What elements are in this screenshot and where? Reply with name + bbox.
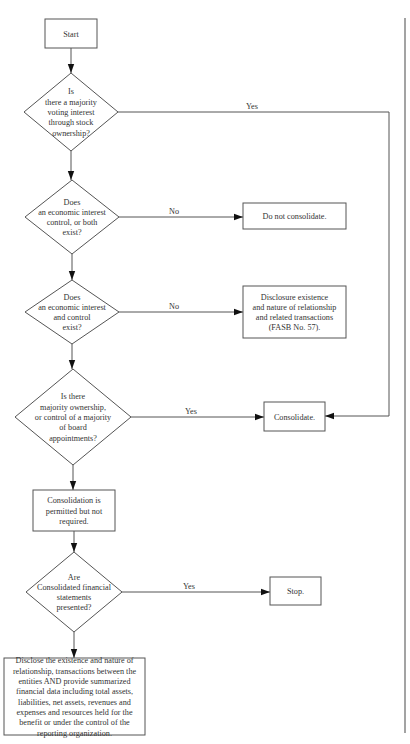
edge-q1-to-consolidate: Yes	[118, 102, 389, 419]
node-text-line: an economic interest	[38, 303, 106, 312]
node-permitted: Consolidation ispermitted but notrequire…	[33, 490, 115, 531]
node-text-line: through stock	[49, 118, 95, 127]
node-text-line: reporting organization.	[37, 729, 112, 738]
decision-diamond	[25, 180, 119, 254]
arrowhead-icon	[325, 413, 334, 419]
node-text-line: statements	[57, 593, 92, 602]
nodes-layer: StartIsthere a majorityvoting interestth…	[4, 19, 346, 738]
edge-label: Yes	[183, 582, 195, 591]
edge-q5-to-stop: Yes	[122, 582, 270, 595]
node-disclose-full: Disclose the existence and nature ofrela…	[4, 656, 145, 737]
node-text-line: exist?	[62, 323, 81, 332]
edge-q3-to-q4	[69, 344, 75, 369]
edge-label: Yes	[185, 407, 197, 416]
edge-q2-to-q3	[69, 254, 75, 280]
edge-label: Yes	[246, 102, 258, 111]
arrowhead-icon	[71, 543, 77, 552]
node-text-line: permitted but not	[46, 507, 103, 516]
node-text-line: entities AND provide summarized	[18, 677, 130, 686]
edge-q4-to-consolidate: Yes	[131, 407, 264, 420]
node-consolidate: Consolidate.	[264, 402, 325, 431]
node-q2: Doesan economic interestcontrol, or both…	[25, 180, 119, 254]
decision-diamond	[25, 280, 119, 344]
node-text-line: control, or both	[47, 218, 98, 227]
node-text-line: and related transactions	[256, 313, 333, 322]
arrowhead-icon	[69, 271, 75, 280]
node-text-line: voting interest	[47, 108, 95, 117]
edge-q4-to-permitted	[70, 465, 76, 490]
node-text-line: Consolidated financial	[37, 583, 112, 592]
arrowhead-icon	[68, 171, 74, 180]
arrowhead-icon	[255, 414, 264, 420]
node-q1: Isthere a majorityvoting interestthrough…	[24, 73, 118, 151]
decision-diamond	[26, 552, 122, 632]
node-text-line: Start	[63, 30, 79, 39]
edge-q3-to-disclosure: No	[119, 302, 243, 315]
node-text-line: relationship, transactions between the	[13, 667, 137, 676]
node-text-line: ownership?	[52, 129, 90, 138]
edge-start-to-q1	[68, 48, 74, 73]
arrowhead-icon	[70, 481, 76, 490]
flowchart: YesNoNoYesYes StartIsthere a majorityvot…	[0, 0, 410, 744]
node-start: Start	[45, 19, 97, 48]
node-text-line: Disclosure existence	[261, 293, 329, 302]
node-text-line: Consolidation is	[47, 496, 100, 505]
node-text-line: Is	[68, 87, 74, 96]
node-disclosure: Disclosure existenceand nature of relati…	[243, 286, 346, 338]
edge-q5-to-disclose-full	[71, 632, 77, 658]
node-text-line: of board	[59, 423, 87, 432]
node-text-line: and control	[53, 313, 91, 322]
edge-label: No	[169, 302, 179, 311]
edge-q2-to-do-not-consolidate: No	[119, 207, 243, 220]
node-text-line: appointments?	[49, 434, 97, 443]
node-stop: Stop.	[270, 577, 321, 605]
node-text-line: (FASB No. 57).	[269, 323, 321, 332]
node-do-not-consolidate: Do not consolidate.	[243, 203, 346, 229]
node-text-line: or control of a majority	[35, 413, 112, 422]
node-text-line: there a majority	[45, 98, 98, 107]
node-text-line: an economic interest	[38, 208, 106, 217]
node-text-line: expenses and resources held for the	[16, 708, 133, 717]
node-text-line: presented?	[56, 603, 91, 612]
arrowhead-icon	[234, 214, 243, 220]
arrowhead-icon	[234, 309, 243, 315]
node-text-line: and nature of relationship	[253, 303, 337, 312]
node-text-line: Stop.	[287, 587, 304, 596]
node-text-line: Do not consolidate.	[263, 212, 327, 221]
node-text-line: required.	[59, 517, 88, 526]
node-text-line: Does	[64, 198, 81, 207]
node-q3: Doesan economic interestand controlexist…	[25, 280, 119, 344]
node-text-line: Are	[68, 573, 81, 582]
node-text-line: Disclose the existence and nature of	[16, 656, 134, 665]
edge-label: No	[169, 207, 179, 216]
arrowhead-icon	[261, 589, 270, 595]
edge-permitted-to-q5	[71, 531, 77, 552]
edge-q1-to-q2	[68, 151, 74, 180]
node-text-line: Is there	[61, 392, 86, 401]
arrowhead-icon	[69, 360, 75, 369]
edges-layer: YesNoNoYesYes	[68, 48, 389, 658]
node-text-line: Consolidate.	[274, 413, 315, 422]
arrowhead-icon	[68, 64, 74, 73]
node-q4: Is theremajority ownership,or control of…	[15, 369, 131, 465]
node-text-line: Does	[64, 293, 81, 302]
node-text-line: financial data including total assets,	[16, 687, 133, 696]
node-text-line: majority ownership,	[40, 403, 106, 412]
node-text-line: exist?	[62, 228, 81, 237]
node-text-line: benefit or under the control of the	[19, 718, 130, 727]
node-text-line: liabilities, net assets, revenues and	[18, 698, 131, 707]
connector-line	[118, 112, 389, 416]
node-q5: AreConsolidated financialstatementsprese…	[26, 552, 122, 632]
